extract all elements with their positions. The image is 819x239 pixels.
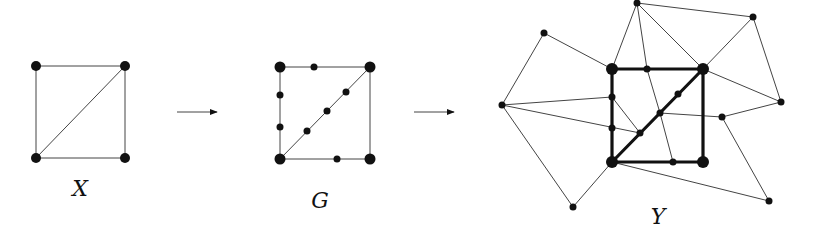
subdivision-vertex bbox=[637, 130, 644, 137]
graph-x: X bbox=[31, 61, 130, 201]
vertex bbox=[31, 61, 41, 71]
outer-vertex bbox=[766, 198, 773, 205]
vertex bbox=[275, 62, 286, 73]
label-g: G bbox=[311, 188, 329, 213]
edge-diagonal bbox=[36, 66, 125, 158]
subdivision-vertex bbox=[657, 110, 664, 117]
label-x: X bbox=[70, 176, 89, 201]
subdivision-vertex bbox=[324, 108, 331, 115]
outer-vertex bbox=[570, 204, 577, 211]
subdivision-vertex bbox=[675, 91, 682, 98]
vertex bbox=[120, 61, 130, 71]
vertex bbox=[120, 153, 130, 163]
vertex bbox=[697, 63, 709, 75]
outer-vertex bbox=[541, 30, 548, 37]
embedded-subgraph-g bbox=[612, 69, 703, 162]
subdivision-vertex bbox=[343, 89, 350, 96]
vertex bbox=[606, 63, 618, 75]
graph-y: Y bbox=[499, 0, 785, 229]
vertex bbox=[31, 153, 41, 163]
subdivision-vertex bbox=[311, 64, 318, 71]
subdivision-vertex bbox=[304, 128, 311, 135]
outer-vertex bbox=[750, 14, 757, 21]
subdivision-vertex bbox=[334, 156, 341, 163]
subdivision-vertex bbox=[609, 94, 616, 101]
subdivision-vertex bbox=[644, 66, 651, 73]
outer-vertex bbox=[778, 99, 785, 106]
subdivision-vertex bbox=[609, 125, 616, 132]
vertex bbox=[365, 154, 376, 165]
vertex bbox=[606, 156, 618, 168]
outer-vertex bbox=[719, 114, 726, 121]
subdivision-vertex bbox=[670, 159, 677, 166]
vertex bbox=[697, 156, 709, 168]
vertex bbox=[275, 154, 286, 165]
graph-g: G bbox=[275, 62, 376, 214]
subdivision-vertex bbox=[277, 124, 284, 131]
vertex bbox=[365, 62, 376, 73]
outer-vertex bbox=[499, 102, 506, 109]
label-y: Y bbox=[651, 204, 668, 229]
diagram-canvas: X G bbox=[0, 0, 819, 239]
subdivision-vertex bbox=[277, 92, 284, 99]
